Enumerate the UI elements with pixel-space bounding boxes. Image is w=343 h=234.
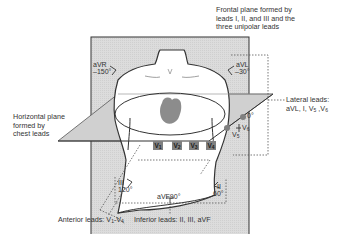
- lead-iii-label: III 120°: [118, 179, 132, 194]
- lateral-leads-label: Lateral leads: aVL, I, V5 ,V6: [286, 96, 329, 114]
- lead-ii-label: II 60°: [213, 183, 224, 198]
- lead-avr-label: aVR –150°: [93, 61, 111, 76]
- lead-avf-label: aVF90°: [157, 193, 180, 200]
- frontal-plane-title: Frontal plane formed by leads I, II, and…: [216, 6, 295, 32]
- chest-lead-v5: V5: [232, 131, 239, 140]
- horizontal-plane-label: Horizontal plane formed by chest leads: [13, 113, 65, 139]
- chest-lead-v4: V4: [206, 141, 216, 150]
- inferior-leads-label: Inferior leads: II, III, aVF: [134, 216, 211, 225]
- lead-avl-label: aVL –30°: [235, 61, 249, 76]
- chest-lead-v2: V2: [172, 141, 182, 150]
- chest-lead-v1: V1: [153, 141, 163, 150]
- chest-lead-v6: V6: [242, 124, 249, 133]
- chest-lead-v3: V3: [189, 141, 199, 150]
- anterior-leads-label: Anterior leads: V1-V4: [58, 216, 124, 226]
- lead-i-angle: 0°: [247, 112, 254, 119]
